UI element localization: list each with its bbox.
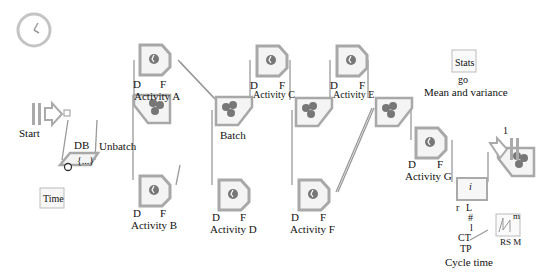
activity-g-label: Activity G (405, 170, 452, 182)
activity-c-label: Activity C (253, 89, 295, 101)
cycle-time-block[interactable] (457, 178, 487, 200)
port-r: r (456, 202, 459, 214)
activity-b-label: Activity B (131, 219, 177, 231)
activity-d-label: Activity D (210, 223, 257, 235)
activity-g-f-port: F (437, 158, 443, 170)
port-tp: TP (460, 243, 472, 255)
stats-caption: Mean and variance (424, 86, 508, 98)
batch-label: Batch (220, 129, 246, 141)
activity-f-label: Activity F (290, 223, 335, 235)
db-inner: {...} (77, 155, 94, 167)
activity-f-d-port: D (291, 211, 299, 223)
activity-b-f-port: F (160, 207, 166, 219)
clock-icon[interactable] (18, 14, 50, 46)
exit-port-label: 1 (503, 125, 508, 137)
activity-e-label: Activity E (333, 89, 374, 101)
start-label: Start (19, 127, 40, 139)
activity-b-d-port: D (133, 207, 141, 219)
db-label: DB (74, 139, 89, 151)
time-label: Time (43, 193, 64, 205)
start-block[interactable] (32, 103, 70, 125)
stats-go-port: go (458, 74, 468, 86)
plotter-rsm: RS M (500, 236, 521, 248)
cycle-time-inner: i (469, 181, 472, 193)
activity-a-f-port: F (160, 78, 166, 90)
unbatch-label: Unbatch (99, 140, 136, 152)
activity-d-d-port: D (212, 211, 220, 223)
activity-d-f-port: F (240, 211, 246, 223)
activity-a-d-port: D (133, 78, 141, 90)
activity-f-f-port: F (320, 211, 326, 223)
activity-a-label: Activity A (134, 90, 180, 102)
stats-label: Stats (455, 57, 474, 69)
plotter-m: m (513, 210, 520, 222)
cycle-time-caption: Cycle time (445, 256, 493, 268)
activity-g-d-port: D (408, 158, 416, 170)
